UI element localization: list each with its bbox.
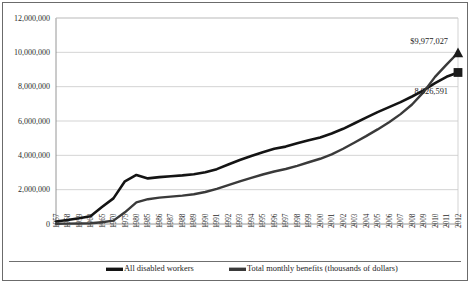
y-axis-tick-label: 0: [46, 220, 50, 229]
x-axis-tick-label: 1992: [225, 213, 233, 228]
x-axis-tick-label: 2012: [455, 213, 463, 228]
series-line-total-monthly-benefits: [56, 53, 458, 224]
endpoint-marker-square: [454, 68, 463, 77]
chart-figure: 02,000,0004,000,0006,000,0008,000,00010,…: [2, 2, 468, 281]
x-axis-tick-label: 1980: [133, 213, 141, 228]
x-axis-tick-label: 1985: [144, 213, 152, 228]
legend-label-total-monthly-benefits: Total monthly benefits (thousands of dol…: [247, 264, 398, 273]
x-axis-tick-label: 1994: [248, 213, 256, 228]
y-axis-tick-label: 4,000,000: [18, 151, 50, 160]
x-axis-tick-label: 2006: [386, 213, 394, 228]
x-axis-tick-label: 1995: [259, 213, 267, 228]
x-axis-tick-label: 1998: [294, 213, 302, 228]
data-point-labels-group: $9,977,0278,826,591: [410, 37, 448, 97]
data-label-all-disabled-workers: 8,826,591: [415, 87, 449, 96]
x-axis-tick-label: 1993: [236, 213, 244, 228]
x-axis-tick-label: 2000: [317, 213, 325, 228]
x-axis-tick-label: 2010: [432, 213, 440, 228]
x-axis-tick-label: 2004: [363, 213, 371, 228]
x-axis-tick-label: 2007: [397, 213, 405, 228]
x-axis-tick-label: 1989: [190, 213, 198, 228]
x-axis-tick-label: 1997: [282, 213, 290, 228]
x-axis-tick-label: 2001: [328, 213, 336, 228]
y-axis-tick-label: 12,000,000: [14, 14, 50, 23]
x-axis-tick-label: 2009: [420, 213, 428, 228]
data-label-total-monthly-benefits: $9,977,027: [410, 37, 448, 46]
x-axis-tick-label: 2005: [374, 213, 382, 228]
x-axis-tick-label: 2008: [409, 213, 417, 228]
x-axis-tick-label: 1959: [76, 213, 84, 228]
x-axis-tick-label: 2011: [443, 213, 451, 228]
x-axis-tick-label: 1987: [167, 213, 175, 228]
x-axis-tick-label: 1990: [202, 213, 210, 228]
x-axis-tick-label: 1991: [213, 213, 221, 228]
chart-legend: All disabled workersTotal monthly benefi…: [9, 262, 461, 274]
chart-plot-area: 02,000,0004,000,0006,000,0008,000,00010,…: [3, 3, 467, 280]
y-axis-tick-label: 10,000,000: [14, 48, 50, 57]
x-axis-tick-label: 1999: [305, 213, 313, 228]
legend-label-all-disabled-workers: All disabled workers: [124, 264, 194, 273]
y-axis-tick-label: 6,000,000: [18, 117, 50, 126]
y-axis-tick-label: 2,000,000: [18, 185, 50, 194]
x-axis-tick-label: 1988: [179, 213, 187, 228]
y-axis-tick-label: 8,000,000: [18, 82, 50, 91]
x-axis-tick-label: 1986: [156, 213, 164, 228]
legend-swatch-all-disabled-workers: [106, 268, 123, 271]
series-paths-group: [56, 53, 458, 224]
y-axis-tick-labels: 02,000,0004,000,0006,000,0008,000,00010,…: [14, 14, 50, 229]
legend-swatch-total-monthly-benefits: [229, 268, 246, 271]
series-line-all-disabled-workers: [56, 72, 458, 221]
x-axis-tick-label: 2003: [351, 213, 359, 228]
x-axis-tick-label: 2002: [340, 213, 348, 228]
line-chart-svg: 02,000,0004,000,0006,000,0008,000,00010,…: [3, 3, 467, 280]
x-axis-tick-label: 1996: [271, 213, 279, 228]
x-axis-tick-label: 1975: [122, 213, 130, 228]
